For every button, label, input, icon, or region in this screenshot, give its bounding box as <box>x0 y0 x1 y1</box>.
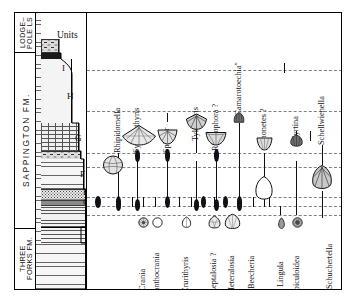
fossil-orbiculoidea <box>292 217 303 228</box>
taxon-orbiculoidea-label: Orbiculoidea <box>293 231 301 290</box>
range-tick <box>280 206 281 215</box>
range-tick <box>284 63 285 73</box>
abundance-spindle <box>116 196 121 208</box>
datum-line-F <box>87 167 342 168</box>
range-tick <box>167 113 168 122</box>
taxon-beecheria-label: Beecheria <box>248 227 256 289</box>
stratigraphic-range-chart: LODGE–POLE LS SAPPINGTON FM. THREEFORKS … <box>0 0 357 308</box>
taxon-lingula-label: Lingula <box>277 231 285 287</box>
taxon-chonetes-label: Chonetes ? <box>260 59 268 145</box>
lithology-outline <box>36 13 87 290</box>
taxon-heteralosia-label: Heteralosia <box>228 231 236 290</box>
formation-sappington-label: SAPPINGTON FM. <box>22 93 30 187</box>
fossil-heteralosia <box>223 213 242 230</box>
formation-threeforks-label: THREEFORKS FM. <box>19 237 34 280</box>
fossil-tylothyris <box>185 113 208 130</box>
abundance-spindle <box>95 196 101 208</box>
fossil-crurithyris <box>181 216 192 228</box>
unit-label-F: F <box>80 170 85 179</box>
range-tick <box>155 197 156 207</box>
range-tick <box>191 197 192 207</box>
fossil-leptalosia <box>207 215 222 229</box>
chart-bottom-rule <box>87 289 342 290</box>
abundance-spindle <box>165 149 171 162</box>
fossil-crania <box>138 217 149 228</box>
formation-sappington: SAPPINGTON FM. <box>15 52 37 228</box>
taxon-camarotoechia-label: "Camarotoechia" <box>235 23 243 119</box>
formation-column: LODGE–POLE LS SAPPINGTON FM. THREEFORKS … <box>14 12 36 290</box>
fossil-rhytiophora <box>204 130 228 146</box>
abundance-spindle <box>165 196 170 208</box>
taxon-acanthocrania-label: Acanthocrania <box>153 231 161 290</box>
unit-label-G: G <box>75 134 82 143</box>
taxon-crania-label: Crania <box>139 231 147 290</box>
range-tick <box>253 197 254 207</box>
formation-lodgepole: LODGE–POLE LS <box>15 13 37 52</box>
range-chart-area: Rhipidomella Syringothyris <box>87 12 342 290</box>
range-tick <box>296 206 297 215</box>
range-bar-upper <box>322 145 323 165</box>
range-tick <box>214 197 215 207</box>
abundance-spindle <box>237 196 242 208</box>
range-tick <box>143 197 144 207</box>
range-bar <box>239 123 240 207</box>
units-header: Units <box>57 30 78 40</box>
unit-label-I: I <box>62 64 65 73</box>
fossil-lingula <box>277 217 286 229</box>
abundance-spindle <box>214 149 220 162</box>
fossil-schellwienella <box>310 164 334 192</box>
range-tick <box>269 198 270 207</box>
fossil-chonetes <box>255 136 274 151</box>
taxon-crurithyris-label: Crurithyris <box>182 231 190 290</box>
abundance-spindle <box>223 196 228 208</box>
formation-lodgepole-label: LODGE–POLE LS <box>19 17 33 49</box>
fossil-spirifer <box>156 128 179 145</box>
taxon-schuchertella-label: Schuchertella <box>326 219 334 289</box>
taxon-cyrtina-label: Cyrtina <box>292 65 300 141</box>
lithology-column <box>36 12 87 290</box>
taxon-schellwienella-label: Schellwienella <box>318 49 326 145</box>
fossil-camarotoechia <box>233 112 245 123</box>
lower-tick-band <box>87 197 342 207</box>
formation-threeforks: THREEFORKS FM. <box>15 228 37 289</box>
range-tick <box>179 197 180 207</box>
fossil-acanthocrania <box>152 217 163 228</box>
abundance-spindle <box>135 150 141 162</box>
range-tick <box>310 131 311 141</box>
abundance-spindle <box>201 196 206 208</box>
range-tick <box>322 206 323 218</box>
unit-label-H: H <box>67 92 74 101</box>
range-bar-upper <box>196 129 197 153</box>
taxon-leptalosia-label: Leptalosia ? <box>210 231 218 290</box>
fossil-cyrtina <box>289 134 304 147</box>
fossil-rhipidomella <box>102 155 124 175</box>
range-tick <box>132 197 133 207</box>
fossil-syringothyris <box>121 124 157 146</box>
